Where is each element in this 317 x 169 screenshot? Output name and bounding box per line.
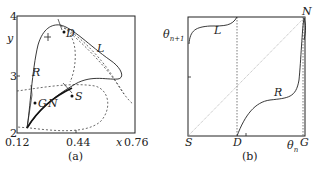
x-tick-0.44: 0.44	[66, 136, 91, 149]
caption-a: (a)	[68, 150, 83, 163]
panel-b: θn+1 L R S D G N θn (b)	[163, 5, 312, 163]
label-N: N	[47, 97, 58, 110]
label-R: R	[31, 66, 40, 79]
y-tick-4: 4	[10, 10, 17, 23]
curve-L	[189, 17, 237, 44]
corner-G: G	[300, 136, 309, 149]
y-tick-3: 3	[10, 70, 17, 83]
x-axis-label: x	[116, 136, 123, 149]
caption-b: (b)	[242, 150, 258, 163]
label-L: L	[213, 24, 221, 37]
point-S	[71, 95, 74, 98]
y-axis-label: θn+1	[163, 28, 184, 43]
x-tick-0.76: 0.76	[124, 136, 149, 149]
point-G	[34, 102, 37, 105]
corner-N: N	[301, 5, 312, 18]
label-G: G	[38, 97, 47, 110]
x-tick-0.12: 0.12	[5, 136, 30, 149]
figure: D S G N L R 4 3 2 y 0.12 0.44 x 0.76 (a)…	[0, 0, 317, 169]
y-axis-label: y	[6, 32, 14, 45]
label-D: D	[65, 27, 75, 40]
curve-R	[237, 18, 306, 136]
label-S: S	[75, 90, 83, 103]
corner-D: D	[232, 136, 242, 149]
diagonal	[188, 17, 305, 136]
panel-a: D S G N L R 4 3 2 y 0.12 0.44 x 0.76 (a)	[5, 10, 149, 163]
x-axis-label: θn	[287, 139, 299, 154]
corner-S: S	[185, 136, 193, 149]
orbit-loop	[27, 25, 122, 128]
label-L: L	[96, 42, 104, 55]
label-R: R	[273, 86, 282, 99]
